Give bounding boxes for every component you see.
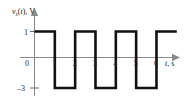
x-tick-label-4: 4 [113, 59, 117, 68]
x-tick-label-5: 5 [134, 59, 138, 68]
plot-canvas: vs(t), V t, s 0 1 2 3 4 5 6 1 –3 [0, 0, 196, 105]
figure-container: vs(t), V t, s 0 1 2 3 4 5 6 1 –3 [0, 0, 196, 105]
y-tick-label-1: 1 [24, 28, 28, 37]
x-tick-label-1: 1 [52, 59, 56, 68]
x-tick-label-3: 3 [93, 59, 97, 68]
y-tick-label-neg3: –3 [16, 84, 25, 93]
x-axis-label: t, s [165, 59, 174, 68]
x-origin-label: 0 [25, 59, 29, 68]
x-tick-label-6: 6 [154, 59, 158, 68]
y-axis-label: vs(t), V [12, 7, 35, 17]
x-tick-label-2: 2 [73, 59, 77, 68]
